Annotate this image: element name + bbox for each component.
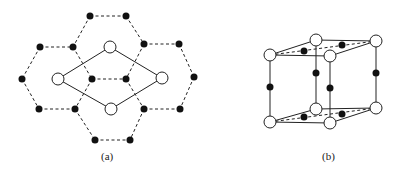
solid-bond <box>270 55 330 56</box>
dashed-bond <box>73 16 90 47</box>
dashed-bond <box>180 77 194 109</box>
solid-bond <box>330 41 376 56</box>
filled-atom <box>72 106 79 113</box>
filled-atom <box>339 42 346 49</box>
filled-atom <box>37 44 44 51</box>
solid-bond <box>270 109 316 122</box>
caption-b: (b) <box>322 150 335 162</box>
solid-bond <box>270 40 316 55</box>
solid-bond <box>316 40 376 41</box>
crystal-structure-figure <box>0 0 398 175</box>
filled-atom <box>373 70 380 77</box>
filled-atom <box>123 13 130 20</box>
dashed-bond <box>130 109 144 140</box>
filled-atom <box>301 48 308 55</box>
filled-atom <box>301 114 308 121</box>
filled-atom <box>127 137 134 144</box>
filled-atom <box>313 70 320 77</box>
filled-atom <box>19 76 26 83</box>
solid-bond <box>111 78 162 109</box>
dashed-bond <box>126 16 144 44</box>
open-atom <box>264 49 276 61</box>
solid-bond <box>58 79 111 109</box>
open-atom <box>324 50 336 62</box>
open-atom <box>105 103 117 115</box>
open-atom <box>156 72 168 84</box>
dashed-bond <box>75 109 95 140</box>
filled-atom <box>327 85 334 92</box>
open-atom <box>104 41 116 53</box>
solid-bond <box>316 108 376 109</box>
filled-atom <box>191 74 198 81</box>
dashed-bond <box>22 47 40 79</box>
open-atom <box>264 116 276 128</box>
dashed-bond <box>270 108 376 122</box>
panel-a-hexagonal-layer <box>19 13 198 144</box>
dashed-bond <box>22 79 39 109</box>
dashed-bond <box>179 44 194 77</box>
filled-atom <box>141 41 148 48</box>
filled-atom <box>87 13 94 20</box>
panel-b-unit-cell <box>264 34 382 129</box>
caption-a: (a) <box>101 150 113 162</box>
open-atom <box>310 103 322 115</box>
solid-bond <box>330 108 376 123</box>
filled-atom <box>92 137 99 144</box>
filled-atom <box>141 106 148 113</box>
filled-atom <box>339 111 346 118</box>
filled-atom <box>267 84 274 91</box>
open-atom <box>370 35 382 47</box>
open-atom <box>52 73 64 85</box>
solid-bond <box>58 47 110 79</box>
dashed-bond <box>270 41 376 55</box>
solid-bond <box>110 47 162 78</box>
filled-atom <box>70 44 77 51</box>
filled-atom <box>177 106 184 113</box>
filled-atom <box>36 106 43 113</box>
filled-atom <box>176 41 183 48</box>
open-atom <box>370 102 382 114</box>
dashed-bond <box>73 47 92 79</box>
open-atom <box>324 117 336 129</box>
filled-atom <box>89 76 96 83</box>
open-atom <box>310 34 322 46</box>
solid-bond <box>270 122 330 123</box>
filled-atom <box>123 76 130 83</box>
